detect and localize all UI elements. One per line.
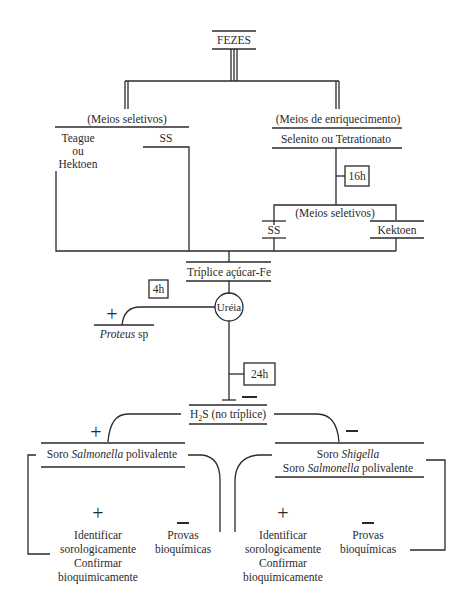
- connector-fezes: [125, 49, 339, 109]
- fezes-label: FEZES: [217, 34, 251, 46]
- salmonella-pos-line: sorologicamente: [60, 543, 136, 556]
- time-4h: 4h: [153, 283, 165, 295]
- ou-label: ou: [72, 145, 84, 157]
- salmonella-neg-line: bioquímicas: [155, 543, 212, 556]
- salmonella-positive-sign: +: [92, 502, 103, 524]
- ss-label-right: SS: [268, 224, 281, 236]
- flowchart: FEZES (Meios seletivos) Teague ou Hektoe…: [0, 0, 473, 616]
- h2s-positive-sign: +: [90, 421, 101, 443]
- shigella-pos-line: sorologicamente: [245, 543, 321, 556]
- shigella-pos-line: Identificar: [259, 529, 307, 541]
- ureia-label: Uréia: [217, 301, 242, 313]
- node-ureia: Uréia + Proteus sp 24h: [94, 293, 275, 400]
- shigella-positive-sign: +: [277, 502, 288, 524]
- salmonella-serum-label: Soro Salmonella polivalente: [47, 448, 177, 461]
- node-triplice: Tríplice açúcar-Fe 4h: [149, 251, 271, 298]
- salmonella-pos-line: Identificar: [74, 529, 122, 541]
- node-fezes: FEZES: [212, 31, 256, 49]
- right-branch: (Meios de enriquecimento) Selenito ou Te…: [262, 113, 424, 251]
- kektoen-label: Kektoen: [378, 224, 417, 236]
- enrichment-media: Selenito ou Tetrationato: [281, 133, 391, 145]
- h2s-label: H2S (no tríplice): [190, 408, 266, 423]
- left-heading: (Meios seletivos): [87, 113, 167, 126]
- proteus-label: Proteus sp: [99, 328, 149, 341]
- hektoen-label: Hektoen: [59, 158, 98, 170]
- shigella-salmonella-serum-label: Soro Salmonella polivalente: [283, 462, 413, 475]
- salmonella-pos-line: Confirmar: [74, 557, 122, 569]
- shigella-branch: Soro Shigella Soro Salmonella polivalent…: [235, 443, 445, 584]
- shigella-pos-line: Confirmar: [259, 557, 307, 569]
- right-heading: (Meios de enriquecimento): [276, 113, 401, 126]
- salmonella-pos-line: bioquimicamente: [58, 571, 138, 584]
- shigella-neg-line: Provas: [352, 529, 384, 541]
- right-sub-heading: (Meios seletivos): [295, 207, 375, 220]
- salmonella-neg-line: Provas: [167, 529, 199, 541]
- shigella-serum-label: Soro Shigella: [317, 448, 380, 461]
- proteus-positive-sign: +: [106, 303, 117, 325]
- teague-label: Teague: [61, 132, 94, 145]
- triplice-label: Tríplice açúcar-Fe: [187, 266, 271, 279]
- time-24h: 24h: [251, 368, 269, 380]
- node-h2s: H2S (no tríplice) +: [90, 405, 358, 443]
- shigella-neg-line: bioquímicas: [340, 543, 397, 556]
- shigella-pos-line: bioquimicamente: [243, 571, 323, 584]
- ss-label-left: SS: [160, 132, 173, 144]
- salmonella-branch: Soro Salmonella polivalente + Identifica…: [28, 443, 220, 584]
- time-16h: 16h: [348, 170, 366, 182]
